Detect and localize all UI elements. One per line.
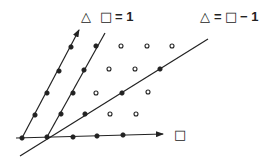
filled-point xyxy=(45,135,49,139)
open-point xyxy=(133,67,137,71)
open-point xyxy=(108,112,112,116)
lattice-diagram: △ □ = 1 △ = □ − 1 □ xyxy=(0,0,272,162)
square-eq-label-square: □ xyxy=(100,9,112,24)
filled-point xyxy=(20,136,24,140)
open-point xyxy=(170,44,174,48)
filled-point xyxy=(59,112,63,116)
diag-label-triangle: △ xyxy=(200,9,210,24)
open-point xyxy=(134,112,138,116)
filled-point xyxy=(83,112,87,116)
horizontal-axis xyxy=(16,134,163,138)
triangle-axis-label: △ xyxy=(81,9,91,24)
diag-label-square: □ xyxy=(225,9,237,24)
open-point xyxy=(107,67,111,71)
filled-point xyxy=(69,45,73,49)
filled-point xyxy=(45,91,49,95)
lattice-points xyxy=(20,44,174,140)
diag-label-minus-one: − 1 xyxy=(240,9,258,24)
open-point xyxy=(94,91,98,95)
filled-point xyxy=(120,91,124,95)
filled-point xyxy=(95,134,99,138)
filled-point xyxy=(71,91,75,95)
open-point xyxy=(145,44,149,48)
square-axis-label: □ xyxy=(174,127,186,142)
filled-point xyxy=(82,68,86,72)
filled-point xyxy=(57,69,61,73)
filled-point xyxy=(121,133,125,137)
filled-point xyxy=(158,67,162,71)
diag-label-eq: = xyxy=(214,9,222,24)
square-eq-label-value: = 1 xyxy=(115,9,133,24)
filled-point xyxy=(33,113,37,117)
filled-point xyxy=(94,44,98,48)
filled-point xyxy=(71,135,75,139)
open-point xyxy=(146,90,150,94)
open-point xyxy=(119,44,123,48)
